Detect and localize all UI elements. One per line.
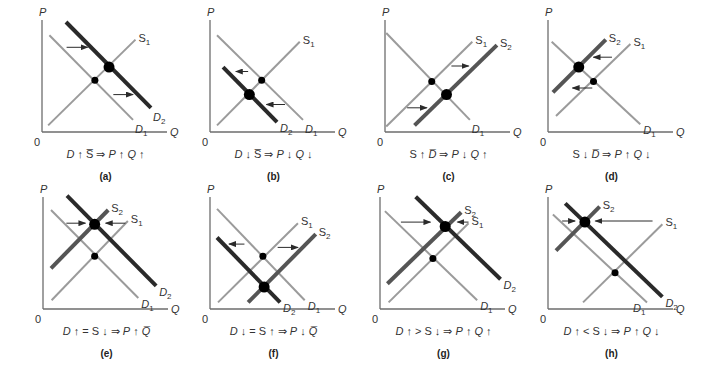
x-axis-label: Q [508,303,517,315]
curve-label-d1: D1 [135,123,148,138]
y-axis-label: P [40,183,48,195]
curve-label-s1: S1 [665,216,677,231]
panel-caption: D ↑ = S ↓ ⇒ P ↑ Q̅ [63,325,151,337]
panel-tag: (d) [605,171,618,182]
panel-tag: (c) [442,171,454,182]
new-equilibrium-dot [441,89,452,100]
origin-label: 0 [35,313,41,325]
x-axis-label: Q [338,126,347,138]
panel-h: PQ0D1S1S2D2D ↑ < S ↓ ⇒ P ↑ Q ↓(h) [540,183,685,359]
curve-label-d2: D2 [280,122,293,137]
y-axis-label: P [545,183,553,195]
y-axis-label: P [545,6,553,18]
origin-label: 0 [34,136,40,148]
curve-label-s1: S1 [303,34,315,49]
curve-label-s2: S2 [111,202,123,217]
initial-equilibrium-dot [259,253,266,260]
curve-label-s2: S2 [609,32,621,47]
panel-tag: (e) [100,348,112,359]
panel-b: PQ0D1S1D2D ↓ S̅ ⇒ P ↓ Q ↓(b) [202,6,347,182]
initial-equilibrium-dot [428,78,435,85]
curve-label-s2: S2 [464,204,476,219]
curve-label-s2: S2 [319,226,331,241]
initial-equilibrium-dot [91,253,98,260]
new-equilibrium-dot [573,62,584,73]
panel-caption: D ↓ S̅ ⇒ P ↓ Q ↓ [234,148,312,160]
panel-tag: (g) [437,348,450,359]
origin-label: 0 [377,136,383,148]
curve-label-s1: S1 [301,215,313,230]
x-axis-label: Q [338,303,347,315]
curve-label-d2: D2 [283,302,296,317]
curve-label-d2: D2 [159,286,172,301]
panel-tag: (b) [267,171,280,182]
panel-g: PQ0D1S1S2D2D ↑ > S ↓ ⇒ P ↑ Q ↑(g) [372,183,517,359]
curve-label-d1: D1 [472,123,485,138]
curve-s1 [52,221,128,300]
initial-equilibrium-dot [258,77,265,84]
new-equilibrium-dot [104,62,115,73]
new-equilibrium-dot [259,282,270,293]
panel-tag: (a) [99,171,111,182]
x-axis-label: Q [676,126,685,138]
curve-label-d1: D1 [141,298,154,313]
panel-caption: S ↑ D̅ ⇒ P ↓ Q ↑ [409,148,487,160]
curve-label-d2: D2 [153,111,166,126]
curve-label-s1: S1 [131,213,143,228]
panel-a: PQ0D1S1D2D ↑ S̅ ⇒ P ↑ Q ↑(a) [34,6,179,182]
curve-label-d1: D1 [305,123,318,138]
curve-label-s1: S1 [633,36,645,51]
y-axis-label: P [207,6,215,18]
initial-equilibrium-dot [612,269,619,276]
origin-label: 0 [202,313,208,325]
new-equilibrium-dot [440,221,451,232]
curve-label-d1: D1 [480,300,493,315]
curve-d2 [416,197,501,279]
panel-caption: D ↑ < S ↓ ⇒ P ↑ Q ↓ [563,325,659,337]
curve-label-d2: D2 [504,279,517,294]
new-equilibrium-dot [89,219,100,230]
new-equilibrium-dot [579,217,590,228]
curve-label-d1: D1 [643,124,656,139]
panel-c: PQ0D1S1S2S ↑ D̅ ⇒ P ↓ Q ↑(c) [377,6,522,182]
x-axis-label: Q [170,126,179,138]
curve-s1 [48,40,135,126]
x-axis-label: Q [513,126,522,138]
initial-equilibrium-dot [429,255,436,262]
panel-caption: D ↑ S̅ ⇒ P ↑ Q ↑ [66,148,144,160]
panel-caption: D ↓ = S ↑ ⇒ P ↓ Q̅ [230,325,318,337]
supply-demand-figure: PQ0D1S1D2D ↑ S̅ ⇒ P ↑ Q ↑(a)PQ0D1S1D2D ↓… [0,0,718,380]
origin-label: 0 [202,136,208,148]
curve-s2 [248,234,316,302]
panel-caption: D ↑ > S ↓ ⇒ P ↑ Q ↑ [395,325,491,337]
y-axis-label: P [377,183,385,195]
curve-label-s2: S2 [500,37,512,52]
curve-d2 [565,203,662,297]
curve-label-s2: S2 [603,199,615,214]
panel-tag: (h) [605,348,618,359]
initial-equilibrium-dot [91,77,98,84]
curve-label-s1: S1 [475,34,487,49]
origin-label: 0 [372,313,378,325]
panel-e: PQ0D1S1S2D2D ↑ = S ↓ ⇒ P ↑ Q̅(e) [35,183,180,359]
x-axis-label: Q [171,303,180,315]
y-axis-label: P [207,183,215,195]
panel-f: PQ0D1S1D2S2D ↓ = S ↑ ⇒ P ↓ Q̅(f) [202,183,347,359]
curve-d1 [386,33,470,120]
curve-label-s1: S1 [138,32,150,47]
curve-label-d1: D1 [633,302,646,317]
new-equilibrium-dot [244,89,255,100]
origin-label: 0 [540,136,546,148]
curve-label-d1: D1 [308,300,321,315]
initial-equilibrium-dot [590,78,597,85]
curve-s1 [583,224,662,302]
y-axis-label: P [39,6,47,18]
origin-label: 0 [540,313,546,325]
curve-d1 [553,214,647,302]
panel-caption: S ↓ D̅ ⇒ P ↑ Q ↓ [572,148,650,160]
y-axis-label: P [382,6,390,18]
curve-s1 [217,42,300,126]
panel-tag: (f) [269,348,279,359]
panel-d: PQ0D1S1S2S ↓ D̅ ⇒ P ↑ Q ↓(d) [540,6,685,182]
